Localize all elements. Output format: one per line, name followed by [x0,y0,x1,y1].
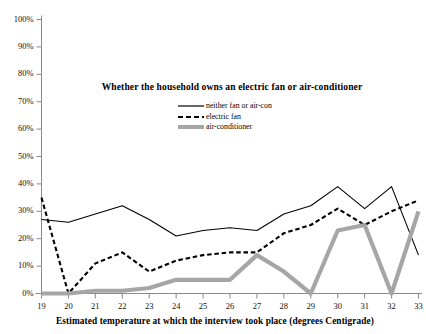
x-axis-tick-label: 33 [407,301,426,311]
y-axis-tick-label: 80% [0,68,34,78]
x-axis-title: Estimated temperature at which the inter… [10,316,420,326]
x-axis-tick-label: 25 [191,301,215,311]
y-axis-tick-label: 70% [0,96,34,106]
series-line [42,187,419,256]
x-axis-tick-label: 24 [164,301,188,311]
y-axis-tick-label: 30% [0,205,34,215]
x-axis-tick-label: 31 [353,301,377,311]
x-axis-tick-label: 21 [83,301,107,311]
x-axis-tick-label: 32 [380,301,404,311]
chart-figure: 0%10%20%30%40%50%60%70%80%90%100% 192021… [0,0,426,334]
chart-plot-area [0,0,426,334]
x-axis-tick-label: 19 [30,301,54,311]
x-axis-tick-label: 20 [56,301,80,311]
y-axis-tick-label: 40% [0,178,34,188]
y-axis-tick-label: 100% [0,14,34,24]
y-axis-tick-label: 20% [0,233,34,243]
y-axis-tick-label: 90% [0,41,34,51]
legend-item-neither: neither fan or air-con [178,101,272,112]
chart-series [42,187,419,294]
x-axis-tick-label: 26 [218,301,242,311]
y-axis-tick-label: 0% [0,288,34,298]
legend-label-neither: neither fan or air-con [206,101,272,112]
thick-grey-line-icon [178,122,204,132]
legend-label-air-conditioner: air-conditioner [206,122,252,133]
x-axis-tick-label: 30 [326,301,350,311]
dashed-line-icon [178,112,204,122]
x-axis-tick-label: 29 [299,301,323,311]
x-axis-tick-label: 28 [272,301,296,311]
chart-title: Whether the household owns an electric f… [64,82,400,92]
x-axis-tick-label: 27 [245,301,269,311]
chart-axes [36,16,423,299]
y-axis-tick-label: 60% [0,123,34,133]
solid-line-icon [178,101,204,111]
chart-legend: neither fan or air-con electric fan air-… [178,101,272,133]
x-axis-tick-label: 23 [137,301,161,311]
y-axis-tick-label: 50% [0,151,34,161]
y-axis-tick-label: 10% [0,260,34,270]
legend-label-electric-fan: electric fan [206,112,241,123]
legend-item-air-conditioner: air-conditioner [178,122,272,133]
legend-item-electric-fan: electric fan [178,112,272,123]
x-axis-tick-label: 22 [110,301,134,311]
